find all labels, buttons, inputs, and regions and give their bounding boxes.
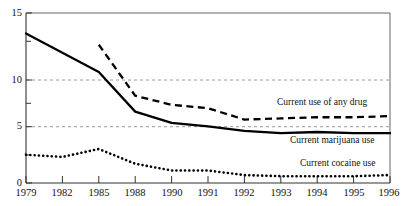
x-tick-label-1982: 1982: [42, 188, 82, 199]
x-tick-label-1990: 1990: [152, 188, 192, 199]
series-label-marijuana: Current marijuana use: [290, 136, 374, 146]
series-label-cocaine: Current cocaine use: [300, 159, 375, 169]
y-tick-label-10: 10: [0, 75, 22, 86]
series-line-any-drug: [99, 45, 390, 120]
y-tick-label-15: 15: [0, 8, 22, 19]
x-tick-label-1994: 1994: [297, 188, 337, 199]
y-tick-label-5: 5: [0, 121, 22, 132]
x-tick-label-1991: 1991: [188, 188, 228, 199]
x-tick-label-1996: 1996: [369, 188, 403, 199]
series-label-any-drug: Current use of any drug: [277, 98, 367, 108]
x-tick-label-1988: 1988: [115, 188, 155, 199]
y-tick-marks: [26, 13, 32, 183]
chart-figure: 15 10 5 0 1979 1982 1985 1988 1990 1991 …: [0, 0, 403, 206]
x-tick-label-1985: 1985: [79, 188, 119, 199]
x-tick-label-1979: 1979: [6, 188, 46, 199]
x-tick-label-1995: 1995: [334, 188, 374, 199]
x-tick-label-1993: 1993: [261, 188, 301, 199]
x-tick-label-1992: 1992: [224, 188, 264, 199]
